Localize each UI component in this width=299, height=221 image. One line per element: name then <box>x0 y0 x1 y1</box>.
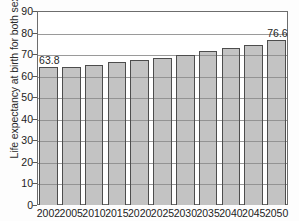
bar-gridline <box>268 55 285 56</box>
bar-gridline <box>268 77 285 78</box>
bar-gridline <box>200 120 217 121</box>
bar-gridline <box>245 120 262 121</box>
bar-gridline <box>154 120 171 121</box>
bar-gridline <box>154 141 171 142</box>
bar-gridline <box>177 120 194 121</box>
bar-gridline <box>40 77 57 78</box>
x-axis-tick-label: 2010 <box>82 207 105 219</box>
bar-2002[interactable] <box>39 67 58 205</box>
x-axis-tick-label: 2050 <box>265 207 288 219</box>
bar-gridline <box>131 141 148 142</box>
y-axis-tick-label: 90 <box>9 5 33 17</box>
bar-gridline <box>131 98 148 99</box>
y-axis-tick-label: 60 <box>9 70 33 82</box>
y-axis-tick-label: 80 <box>9 27 33 39</box>
bars-group <box>37 11 288 205</box>
y-axis-tick-label: 30 <box>9 134 33 146</box>
bar-gridline <box>223 77 240 78</box>
bar-2040[interactable] <box>222 48 241 205</box>
bar-2010[interactable] <box>85 65 104 205</box>
bar-gridline <box>40 98 57 99</box>
bar-2015[interactable] <box>108 62 127 205</box>
bar-gridline <box>86 77 103 78</box>
x-axis-tick-label: 2005 <box>60 207 83 219</box>
bar-2005[interactable] <box>62 67 81 205</box>
bar-gridline <box>154 184 171 185</box>
bar-gridline <box>154 163 171 164</box>
bar-gridline <box>109 163 126 164</box>
bar-gridline <box>200 98 217 99</box>
data-label-2050: 76.6 <box>267 27 287 39</box>
y-axis-tick-label: 10 <box>9 177 33 189</box>
bar-gridline <box>40 141 57 142</box>
bar-gridline <box>109 141 126 142</box>
bar-gridline <box>177 184 194 185</box>
bar-gridline <box>245 98 262 99</box>
x-axis-tick-label: 2040 <box>219 207 242 219</box>
bar-gridline <box>245 184 262 185</box>
bar-gridline <box>177 163 194 164</box>
bar-gridline <box>223 98 240 99</box>
x-axis-tick-label: 2020 <box>128 207 151 219</box>
bar-2020[interactable] <box>130 60 149 205</box>
bar-gridline <box>109 184 126 185</box>
bar-gridline <box>200 141 217 142</box>
bar-gridline <box>223 55 240 56</box>
y-axis-tick-mark <box>32 205 37 206</box>
y-axis-tick-label: 40 <box>9 113 33 125</box>
bar-gridline <box>131 184 148 185</box>
bar-gridline <box>109 98 126 99</box>
bar-gridline <box>200 77 217 78</box>
bar-gridline <box>268 120 285 121</box>
bar-gridline <box>245 55 262 56</box>
x-axis-tick-label: 2015 <box>105 207 128 219</box>
bar-gridline <box>177 77 194 78</box>
x-axis-tick-label: 2030 <box>174 207 197 219</box>
bar-gridline <box>63 77 80 78</box>
bar-gridline <box>86 98 103 99</box>
bar-2050[interactable] <box>267 40 286 205</box>
bar-gridline <box>268 141 285 142</box>
y-axis-tick-label: 50 <box>9 91 33 103</box>
x-axis-tick-label: 2025 <box>151 207 174 219</box>
data-label-2002: 63.8 <box>39 54 59 66</box>
bar-gridline <box>268 163 285 164</box>
bar-gridline <box>223 184 240 185</box>
bar-gridline <box>131 77 148 78</box>
bar-2030[interactable] <box>176 55 195 205</box>
x-axis: 2002200520102015202020252030203520402045… <box>37 207 288 221</box>
y-axis-tick-label: 70 <box>9 48 33 60</box>
bar-gridline <box>245 141 262 142</box>
bar-gridline <box>154 77 171 78</box>
bar-gridline <box>245 163 262 164</box>
bar-gridline <box>86 120 103 121</box>
bar-gridline <box>268 184 285 185</box>
bar-gridline <box>200 55 217 56</box>
bar-gridline <box>40 163 57 164</box>
bar-gridline <box>63 141 80 142</box>
bar-gridline <box>223 163 240 164</box>
bar-2045[interactable] <box>244 45 263 205</box>
bar-gridline <box>154 98 171 99</box>
bar-2025[interactable] <box>153 58 172 205</box>
bar-gridline <box>268 98 285 99</box>
bar-gridline <box>86 163 103 164</box>
life-expectancy-bar-chart: Life expectancy at birth for both sexes … <box>0 0 299 221</box>
bar-gridline <box>40 184 57 185</box>
bar-gridline <box>245 77 262 78</box>
bar-gridline <box>86 141 103 142</box>
y-axis-tick-label: 20 <box>9 156 33 168</box>
x-axis-tick-label: 2035 <box>196 207 219 219</box>
bar-gridline <box>63 98 80 99</box>
bar-gridline <box>177 141 194 142</box>
bar-gridline <box>200 184 217 185</box>
bar-gridline <box>223 120 240 121</box>
bar-gridline <box>131 120 148 121</box>
bar-gridline <box>63 120 80 121</box>
bar-gridline <box>63 163 80 164</box>
bar-gridline <box>177 98 194 99</box>
bar-gridline <box>40 120 57 121</box>
bar-2035[interactable] <box>199 51 218 205</box>
y-axis-tick-label: 0 <box>9 199 33 211</box>
bar-gridline <box>200 163 217 164</box>
